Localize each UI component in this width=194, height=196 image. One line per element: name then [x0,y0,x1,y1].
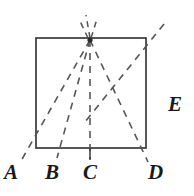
ray-apex-to-b [57,40,90,158]
vertex-label-e: E [168,94,182,115]
ray-apex-to-d [90,40,148,162]
ray-apex-up-right [91,19,97,38]
ray-apex-to-a [21,40,90,161]
vertex-label-d: D [148,162,163,183]
vertex-label-a: A [4,162,18,183]
vertex-label-b: B [45,162,59,183]
square-outline [36,38,146,148]
apex-point [87,37,92,42]
geometry-figure: A B C D E [0,0,194,196]
vertex-label-c: C [83,162,97,183]
